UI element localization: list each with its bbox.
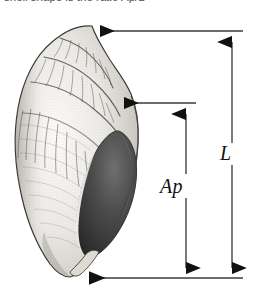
shell-measurement-figure: shell shape is the ratio Ap/L [0, 0, 260, 297]
shell-length-label: L [220, 143, 231, 163]
aperture-length-label: Ap [160, 176, 183, 196]
